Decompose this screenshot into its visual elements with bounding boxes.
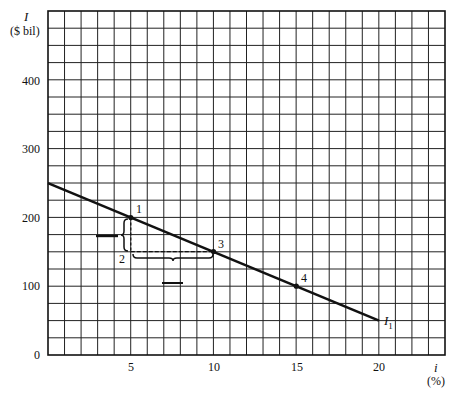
point-label-1: 1 <box>136 203 142 216</box>
grid <box>48 11 445 355</box>
chart-canvas <box>0 0 462 400</box>
x-axis-symbol: i <box>434 361 438 374</box>
x-tick-15: 15 <box>282 361 312 374</box>
point-label-3: 3 <box>218 238 224 251</box>
x-tick-10: 10 <box>199 361 229 374</box>
y-tick-0: 0 <box>2 349 40 362</box>
curve-subscript: 1 <box>388 321 393 331</box>
y-axis-unit: ($ bil) <box>10 25 40 38</box>
y-tick-400: 400 <box>2 75 40 88</box>
y-tick-100: 100 <box>2 280 40 293</box>
point-label-2: 2 <box>119 253 125 266</box>
y-axis-symbol: I <box>24 10 28 23</box>
x-tick-20: 20 <box>364 361 394 374</box>
horizontal-brace <box>133 254 213 261</box>
point-label-4: 4 <box>301 272 307 285</box>
x-tick-5: 5 <box>116 361 146 374</box>
x-axis-unit: (%) <box>427 375 445 388</box>
curve-label-i1: I1 <box>384 314 393 333</box>
point-4 <box>294 284 299 289</box>
y-tick-300: 300 <box>2 143 40 156</box>
point-1 <box>128 215 133 220</box>
point-3 <box>211 249 216 254</box>
y-tick-200: 200 <box>2 212 40 225</box>
